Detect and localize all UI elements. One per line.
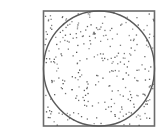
sample-point bbox=[84, 100, 85, 101]
sample-point bbox=[120, 111, 121, 112]
sample-point bbox=[132, 29, 133, 30]
sample-point bbox=[92, 105, 93, 106]
sample-point bbox=[133, 104, 134, 105]
sample-point bbox=[85, 95, 86, 96]
sample-point bbox=[153, 19, 154, 20]
sample-point bbox=[110, 30, 111, 31]
sample-point bbox=[58, 77, 59, 78]
sample-point bbox=[88, 13, 89, 14]
sample-point bbox=[51, 29, 52, 30]
sample-point bbox=[120, 61, 121, 62]
sample-point bbox=[86, 81, 87, 82]
sample-point bbox=[146, 40, 147, 41]
sample-point bbox=[73, 119, 74, 120]
sample-point bbox=[133, 40, 134, 41]
sample-point bbox=[111, 106, 112, 107]
sample-point bbox=[111, 99, 112, 100]
sample-point bbox=[126, 114, 127, 115]
sample-point bbox=[123, 96, 124, 97]
sample-point bbox=[117, 34, 118, 35]
sample-point bbox=[108, 106, 109, 107]
sample-point bbox=[148, 46, 149, 47]
sample-point bbox=[121, 106, 122, 107]
sample-point bbox=[128, 99, 129, 100]
sample-point bbox=[147, 25, 148, 26]
sample-point bbox=[73, 38, 74, 39]
sample-point bbox=[105, 35, 106, 36]
sample-point bbox=[65, 93, 66, 94]
sample-point bbox=[118, 70, 119, 71]
sample-point bbox=[61, 55, 62, 56]
sample-point bbox=[109, 71, 110, 72]
sample-point bbox=[84, 105, 85, 106]
sample-point bbox=[111, 63, 112, 64]
sample-point bbox=[48, 117, 49, 118]
sample-point bbox=[54, 121, 55, 122]
sample-point bbox=[124, 64, 125, 65]
sample-point bbox=[144, 113, 145, 114]
sample-point bbox=[67, 41, 68, 42]
sample-point bbox=[116, 76, 117, 77]
sample-point bbox=[69, 41, 70, 42]
sample-point bbox=[107, 59, 108, 60]
sample-point bbox=[146, 117, 147, 118]
sample-point bbox=[149, 37, 150, 38]
sample-point bbox=[96, 27, 97, 28]
sample-point bbox=[118, 118, 119, 119]
sample-point bbox=[145, 79, 146, 80]
sample-point bbox=[145, 68, 146, 69]
sample-point bbox=[51, 61, 52, 62]
sample-point bbox=[77, 63, 78, 64]
sample-point bbox=[153, 36, 154, 37]
sample-point bbox=[87, 87, 88, 88]
sample-point bbox=[86, 58, 87, 59]
sample-point bbox=[76, 52, 77, 53]
sample-point bbox=[50, 15, 51, 16]
sample-point bbox=[123, 57, 124, 58]
sample-point bbox=[111, 111, 112, 112]
sample-point bbox=[64, 40, 65, 41]
sample-point bbox=[73, 55, 74, 56]
sample-point bbox=[104, 58, 105, 59]
sample-point bbox=[134, 107, 135, 108]
sample-point bbox=[114, 103, 115, 104]
sample-point bbox=[46, 62, 47, 63]
sample-point bbox=[93, 34, 94, 35]
sample-point bbox=[128, 112, 129, 113]
sample-point bbox=[124, 53, 125, 54]
sample-point bbox=[121, 109, 122, 110]
sample-point bbox=[140, 119, 141, 120]
sample-point bbox=[111, 70, 112, 71]
sample-point bbox=[149, 13, 150, 14]
sample-point bbox=[123, 124, 124, 125]
sample-point bbox=[46, 111, 47, 112]
sample-point bbox=[150, 66, 151, 67]
sample-point bbox=[51, 19, 52, 20]
sample-point bbox=[54, 80, 55, 81]
sample-point bbox=[45, 44, 46, 45]
sample-point bbox=[139, 115, 140, 116]
sample-point bbox=[75, 77, 76, 78]
sample-point bbox=[62, 114, 63, 115]
sample-point bbox=[110, 46, 111, 47]
sample-point bbox=[130, 54, 131, 55]
sample-point bbox=[112, 90, 113, 91]
sample-point bbox=[89, 40, 90, 41]
sample-point bbox=[82, 97, 83, 98]
sample-point bbox=[131, 97, 132, 98]
sample-point bbox=[149, 79, 150, 80]
sample-point bbox=[86, 105, 87, 106]
sample-point bbox=[122, 79, 123, 80]
sample-point bbox=[54, 94, 55, 95]
sample-point bbox=[62, 80, 63, 81]
sample-point bbox=[87, 118, 88, 119]
sample-point bbox=[104, 16, 105, 17]
sample-point bbox=[95, 37, 96, 38]
sample-point bbox=[129, 35, 130, 36]
sample-point bbox=[46, 31, 47, 32]
sample-point bbox=[49, 58, 50, 59]
sample-point bbox=[121, 24, 122, 25]
sample-point bbox=[49, 117, 50, 118]
sample-point bbox=[58, 48, 59, 49]
sample-point bbox=[55, 37, 56, 38]
